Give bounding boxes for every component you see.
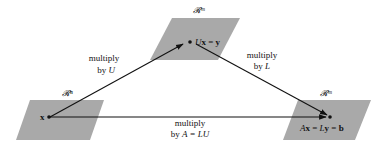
middle-space-label: 𝓡ᵐ: [193, 5, 205, 15]
arrow-U-label-line1: multiply: [89, 53, 120, 63]
codomain-space-label: 𝓡ᵐ: [320, 88, 332, 98]
point-x-label: x: [40, 112, 45, 122]
domain-space-label: 𝓡ⁿ: [62, 88, 73, 98]
arrow-L-label-line1: multiply: [247, 50, 278, 60]
point-b-label: Ax = Ly = b: [299, 123, 344, 133]
arrow-L-label-line2: by L: [254, 61, 270, 71]
domain-plane: [16, 100, 104, 140]
point-y-label: Ux = y: [195, 37, 221, 47]
arrow-U-label-line2: by U: [97, 65, 115, 75]
codomain-plane: [283, 100, 371, 140]
arrow-A-label-line1: multiply: [175, 118, 206, 128]
point-y: [188, 40, 192, 44]
point-x: [47, 115, 51, 119]
point-b: [328, 115, 332, 119]
factorization-diagram: 𝓡ⁿ 𝓡ᵐ 𝓡ᵐ x Ux = y Ax = Ly = b multiply b…: [0, 0, 385, 149]
arrow-A-label-line2: by A = LU: [171, 129, 210, 139]
